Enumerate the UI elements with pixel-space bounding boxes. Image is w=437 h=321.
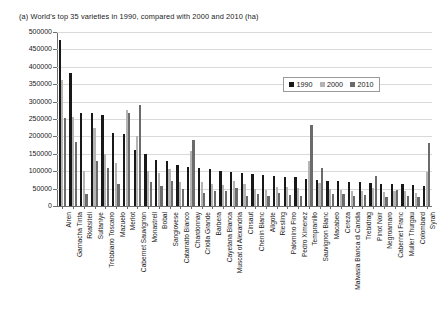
plot-area xyxy=(57,32,432,206)
bar-2010 xyxy=(407,196,409,206)
legend-swatch-2000-icon xyxy=(320,82,325,87)
y-axis-tick-label: 100000 xyxy=(6,167,52,174)
bar-group xyxy=(423,143,431,206)
bar-2010 xyxy=(85,194,87,206)
bar-2010 xyxy=(235,188,237,206)
x-tick-mark xyxy=(416,206,417,209)
chart-caption: (a) World's top 35 varieties in 1990, co… xyxy=(19,12,259,21)
x-tick-mark xyxy=(127,206,128,209)
x-tick-mark xyxy=(159,206,160,209)
x-axis-tick-label: Muller Thurgau xyxy=(408,212,415,256)
x-axis-tick-label: Cabernet Franc xyxy=(397,212,404,258)
chart-figure: (a) World's top 35 varieties in 1990, co… xyxy=(0,0,437,321)
bar-2010 xyxy=(96,161,98,206)
x-axis-tick-label: Cereza xyxy=(344,212,351,233)
y-tick-mark xyxy=(53,119,57,120)
x-axis-tick-label: Trebbiano Toscano xyxy=(108,212,115,268)
x-tick-mark xyxy=(245,206,246,209)
bar-group xyxy=(176,165,184,206)
x-tick-mark xyxy=(84,206,85,209)
bar-2010 xyxy=(128,113,130,206)
x-axis-tick-label: Criolla Grande xyxy=(204,212,211,255)
x-tick-mark xyxy=(362,206,363,209)
bar-group xyxy=(144,154,152,206)
y-tick-mark xyxy=(53,154,57,155)
x-axis-tick-label: Macabeo xyxy=(333,212,340,239)
bar-2010 xyxy=(396,190,398,206)
x-axis-tick-label: Trebidrag xyxy=(365,212,372,240)
x-tick-mark xyxy=(373,206,374,209)
bar-2010 xyxy=(225,191,227,206)
bar-group xyxy=(412,185,420,206)
x-axis-tick-label: Garnacha Tinta xyxy=(76,212,83,257)
bar-2010 xyxy=(428,143,430,206)
bar-2010 xyxy=(353,196,355,206)
x-tick-mark xyxy=(266,206,267,209)
legend-item-1990: 1990 xyxy=(289,80,313,89)
x-tick-mark xyxy=(287,206,288,209)
x-tick-mark xyxy=(309,206,310,209)
bar-2010 xyxy=(203,193,205,206)
bar-2010 xyxy=(385,197,387,206)
bar-group xyxy=(348,182,356,206)
bar-2010 xyxy=(117,184,119,206)
x-axis-tick-label: Palomino Fino xyxy=(290,212,297,254)
bar-group xyxy=(380,184,388,206)
bar-group xyxy=(91,113,99,206)
bar-group xyxy=(59,40,67,206)
x-axis-tick-label: Sauvignon Blanc xyxy=(322,212,329,262)
bar-group xyxy=(305,125,313,206)
legend-label-1990: 1990 xyxy=(297,80,313,89)
bar-2010 xyxy=(310,125,312,206)
y-tick-mark xyxy=(53,102,57,103)
y-tick-mark xyxy=(53,32,57,33)
bar-2010 xyxy=(342,194,344,206)
bar-2010 xyxy=(267,196,269,206)
bar-group xyxy=(316,168,324,206)
x-axis-tick-label: Malvasia Bianca di Candia xyxy=(354,212,361,290)
gridline xyxy=(57,67,432,68)
bar-2010 xyxy=(321,168,323,206)
y-axis-tick-label: 500000 xyxy=(6,28,52,35)
bar-2010 xyxy=(289,195,291,206)
x-axis-tick-label: Pedro Ximenez xyxy=(301,212,308,257)
x-axis-tick-label: Chenin Blanc xyxy=(258,212,265,251)
x-axis-tick-label: Monastrell xyxy=(151,212,158,242)
gridline xyxy=(57,119,432,120)
y-axis-tick-label: 150000 xyxy=(6,150,52,157)
bar-2010 xyxy=(246,196,248,206)
bar-group xyxy=(80,113,88,206)
bar-2010 xyxy=(257,194,259,206)
x-axis-tick-label: Barbera xyxy=(215,212,222,235)
x-tick-mark xyxy=(298,206,299,209)
bar-group xyxy=(101,115,109,206)
legend-item-2010: 2010 xyxy=(350,80,374,89)
x-tick-mark xyxy=(137,206,138,209)
bar-group xyxy=(198,168,206,206)
x-axis-tick-label: Cabernet Sauvignon xyxy=(140,212,147,272)
bar-group xyxy=(284,177,292,206)
bar-group xyxy=(251,174,259,206)
bar-group xyxy=(391,184,399,206)
bar-2010 xyxy=(150,182,152,206)
bar-2010 xyxy=(364,195,366,206)
bar-2010 xyxy=(171,181,173,206)
legend-label-2010: 2010 xyxy=(358,80,374,89)
x-tick-mark xyxy=(352,206,353,209)
bar-group xyxy=(209,169,217,206)
bar-2010 xyxy=(300,196,302,206)
y-tick-mark xyxy=(53,206,57,207)
bar-2010 xyxy=(107,168,109,206)
y-axis-tick-label: 350000 xyxy=(6,80,52,87)
bar-group xyxy=(134,105,142,206)
y-axis-tick-label: 50000 xyxy=(6,185,52,192)
bar-group xyxy=(241,173,249,206)
x-axis-tick-label: Cayetana Blanca xyxy=(226,212,233,262)
x-tick-mark xyxy=(341,206,342,209)
x-axis-tick-label: Mazuelo xyxy=(119,212,126,237)
chart-legend: 1990 2000 2010 xyxy=(283,77,380,92)
x-axis-tick-label: Sultaniye xyxy=(97,212,104,239)
bar-group xyxy=(369,176,377,206)
x-tick-mark xyxy=(62,206,63,209)
bar-2010 xyxy=(160,186,162,206)
